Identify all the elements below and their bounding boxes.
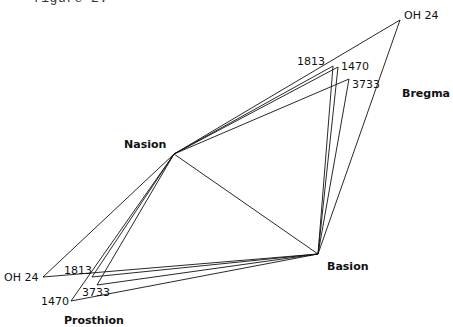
label-prosthion: Prosthion bbox=[64, 314, 124, 327]
specimen-oh24-triangles bbox=[43, 20, 400, 277]
label-1813-prosthion: 1813 bbox=[64, 264, 92, 277]
label-nasion: Nasion bbox=[124, 138, 166, 151]
specimen-1813-triangles bbox=[92, 66, 333, 277]
nasion-basion-line bbox=[174, 154, 318, 254]
label-1470-prosthion: 1470 bbox=[41, 295, 69, 308]
label-3733-prosthion: 3733 bbox=[82, 286, 110, 299]
label-oh24-prosthion: OH 24 bbox=[4, 271, 38, 284]
label-oh24-bregma: OH 24 bbox=[404, 9, 438, 22]
label-basion: Basion bbox=[327, 260, 369, 273]
label-3733-bregma: 3733 bbox=[352, 78, 380, 91]
cranial-triangles-diagram: OH 24 1813 1470 3733 OH 24 1813 1470 373… bbox=[0, 0, 453, 327]
label-bregma: Bregma bbox=[402, 87, 450, 100]
specimen-3733-triangles bbox=[97, 79, 349, 285]
label-1813-bregma: 1813 bbox=[297, 55, 325, 68]
label-1470-bregma: 1470 bbox=[341, 60, 369, 73]
